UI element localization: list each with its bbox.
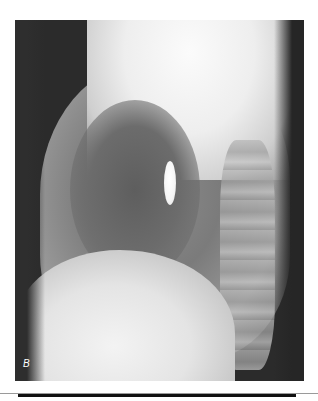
xray-image: B [15,20,304,381]
film-edge-right [274,20,304,381]
foreign-body [164,161,176,205]
panel-label: B [23,358,30,369]
film-edge-left [15,20,45,381]
divider-thick [18,394,296,397]
